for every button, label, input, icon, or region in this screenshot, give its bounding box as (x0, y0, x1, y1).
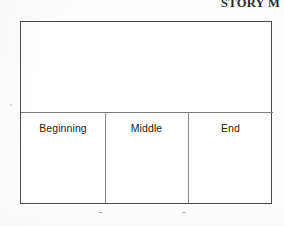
bottom-tick-mark-1: ▬ (99, 210, 102, 214)
section-cell-beginning[interactable]: Beginning (21, 113, 105, 143)
section-cell-middle[interactable]: Middle (105, 113, 188, 143)
section-label-beginning: Beginning (39, 122, 87, 134)
story-map-frame: Beginning Middle End (20, 21, 272, 204)
section-label-end: End (221, 122, 240, 134)
section-label-band: Beginning Middle End (21, 113, 273, 143)
section-cell-end[interactable]: End (188, 113, 273, 143)
bottom-tick-mark-2: ▬ (182, 210, 185, 214)
left-axis-mark: ≡ (9, 104, 13, 106)
section-label-middle: Middle (131, 122, 163, 134)
page-title: STORY M (221, 0, 280, 11)
scanned-worksheet-page: STORY M Beginning Middle End ≡ ▬ ▬ (0, 0, 284, 226)
